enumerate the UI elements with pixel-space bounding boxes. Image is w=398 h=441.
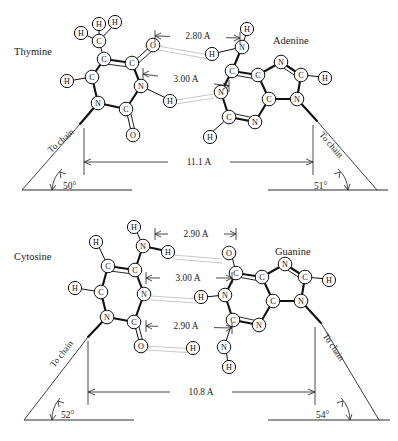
chain-geometry-ta: 11.1 A 50° 51° To chain To chain: [22, 121, 388, 191]
atom-label: N: [282, 260, 288, 269]
atom-label: C: [255, 71, 261, 80]
atom-label: O: [130, 131, 136, 140]
atom-label: C: [131, 318, 137, 327]
cytosine-guanine-pair: H C C C H H N H N N C O O: [14, 220, 390, 420]
hbond-distance-label: 2.90 A: [184, 229, 209, 239]
atom-label: C: [229, 67, 235, 76]
atom-label: C: [302, 273, 308, 282]
atom-label: H: [93, 238, 99, 247]
hbond-distance-label: 3.00 A: [176, 273, 201, 283]
hydrogen-bonds-cg: [147, 255, 222, 353]
to-chain-label: To chain: [48, 338, 75, 369]
atom-label: H: [207, 133, 213, 142]
atom-label: N: [252, 118, 258, 127]
atom-label: C: [270, 297, 276, 306]
atom-label: H: [131, 223, 137, 232]
to-chain-label: To chain: [317, 130, 345, 160]
atom-label: H: [322, 74, 328, 83]
atom-label: C: [230, 316, 236, 325]
atom-label: N: [141, 290, 147, 299]
atom-label: N: [278, 58, 284, 67]
pair-span-label: 11.1 A: [187, 157, 212, 167]
chain-geometry-cg: 10.8 A 52° 54° To chain To chain: [24, 323, 390, 420]
atom-label: N: [221, 343, 227, 352]
atom-label: H: [209, 50, 215, 59]
atom-label: H: [244, 25, 250, 34]
atom-label: C: [132, 266, 138, 275]
hbond-distance-label: 2.80 A: [186, 31, 211, 41]
hbond-dim-2-90-lower: 2.90 A: [146, 320, 232, 334]
hbond-distance-label: 3.00 A: [174, 74, 199, 84]
atom-label: C: [101, 55, 107, 64]
atom-label: H: [167, 97, 173, 106]
atom-label: H: [198, 293, 204, 302]
atom-label: H: [72, 284, 78, 293]
atom-label: C: [266, 95, 272, 104]
atom-label: N: [138, 82, 144, 91]
base-pair-diagram: H H H C C C C H O N H N C O: [0, 0, 398, 441]
base-label-guanine: Guanine: [275, 246, 311, 257]
pair-span-label: 10.8 A: [189, 387, 214, 397]
atom-label: C: [123, 105, 129, 114]
atom-label: N: [222, 291, 228, 300]
atom-label: O: [138, 342, 144, 351]
atom-label: H: [96, 20, 102, 29]
atom-label: O: [226, 249, 232, 258]
atom-label: C: [259, 273, 265, 282]
atom-label: C: [89, 73, 95, 82]
atom-label: N: [104, 313, 110, 322]
to-chain-label: To chain: [46, 126, 76, 154]
atom-label: C: [98, 288, 104, 297]
base-label-adenine: Adenine: [273, 35, 309, 46]
chain-angle-label: 50°: [63, 181, 77, 191]
cytosine-bonds: [76, 230, 166, 342]
atom-label: C: [129, 59, 135, 68]
hbond-dim-3-00-cg: 3.00 A: [146, 271, 232, 284]
chain-angle-label: 52°: [61, 410, 75, 420]
atom-label: C: [298, 71, 304, 80]
atom-label: C: [105, 262, 111, 271]
atom-label: H: [78, 29, 84, 38]
hbond-dim-2-90-upper: 2.90 A: [155, 227, 236, 240]
chain-angle-label: 54°: [316, 410, 330, 420]
base-label-cytosine: Cytosine: [14, 251, 52, 262]
atom-label: C: [226, 113, 232, 122]
atom-label: H: [112, 18, 118, 27]
atom-label: H: [64, 77, 70, 86]
thymine-adenine-pair: H H H C C C C H O N H N C O: [14, 15, 388, 191]
atom-label: C: [233, 269, 239, 278]
to-chain-label: To chain: [321, 331, 347, 363]
atom-label: H: [326, 276, 332, 285]
guanine-atoms: O C C N H N C H C N C N N H: [186, 246, 335, 373]
atom-label: N: [256, 321, 262, 330]
hbond-distance-label: 2.90 A: [174, 321, 199, 331]
atom-label: H: [226, 363, 232, 372]
hbond-dim-2-80: 2.80 A: [155, 29, 240, 44]
atom-label: H: [190, 344, 196, 353]
atom-label: N: [298, 297, 304, 306]
chain-angle-label: 51°: [314, 181, 328, 191]
atom-label: N: [140, 242, 146, 251]
atom-label: N: [95, 99, 101, 108]
atom-label: C: [96, 37, 102, 46]
atom-label: N: [294, 95, 300, 104]
base-label-thymine: Thymine: [14, 46, 52, 57]
atom-label: H: [165, 248, 171, 257]
